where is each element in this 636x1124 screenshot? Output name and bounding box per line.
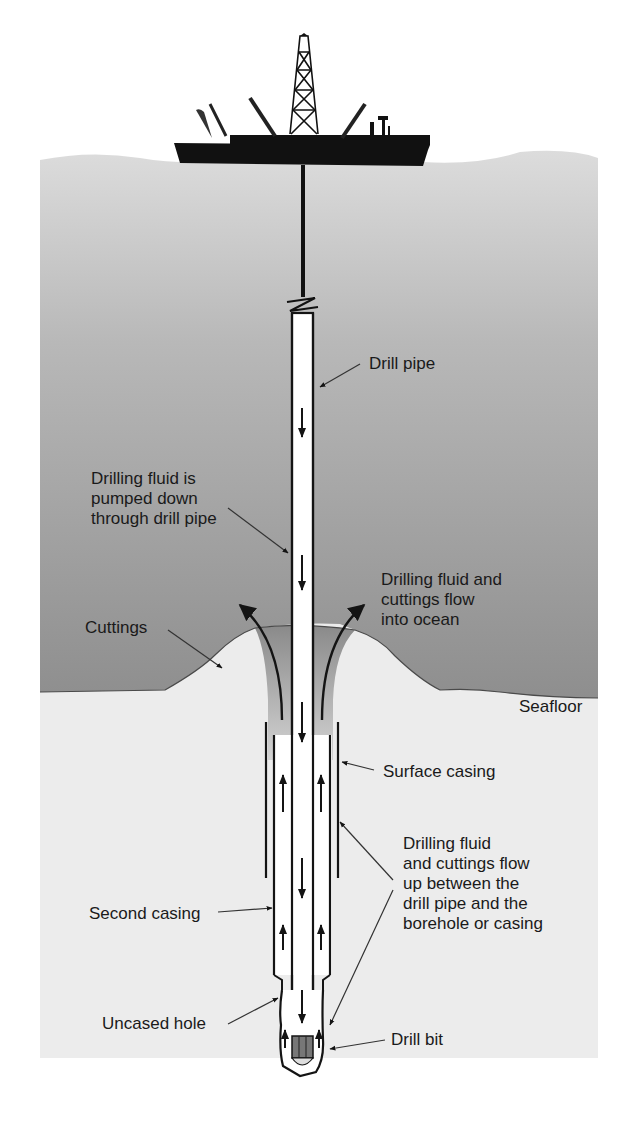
label-cuttings: Cuttings bbox=[85, 618, 147, 638]
drill-ship bbox=[174, 33, 430, 166]
label-second-casing: Second casing bbox=[89, 904, 201, 924]
label-drill-pipe: Drill pipe bbox=[369, 354, 435, 374]
label-fluid-pumped-down: Drilling fluid is pumped down through dr… bbox=[91, 469, 217, 529]
crane-right-icon bbox=[342, 104, 365, 138]
label-uncased-hole: Uncased hole bbox=[102, 1014, 206, 1034]
label-surface-casing: Surface casing bbox=[383, 762, 495, 782]
label-seafloor: Seafloor bbox=[519, 697, 582, 717]
drilling-diagram: Drill pipe Drilling fluid is pumped down… bbox=[0, 0, 636, 1124]
label-drill-bit: Drill bit bbox=[391, 1030, 443, 1050]
label-fluid-into-ocean: Drilling fluid and cuttings flow into oc… bbox=[381, 570, 502, 630]
crane-mid-icon bbox=[250, 98, 275, 136]
diagram-canvas bbox=[0, 0, 636, 1124]
derrick-icon bbox=[290, 36, 318, 134]
drill-bit bbox=[292, 1036, 313, 1065]
label-fluid-flow-up: Drilling fluid and cuttings flow up betw… bbox=[403, 834, 543, 934]
crane-left-icon bbox=[196, 109, 212, 138]
